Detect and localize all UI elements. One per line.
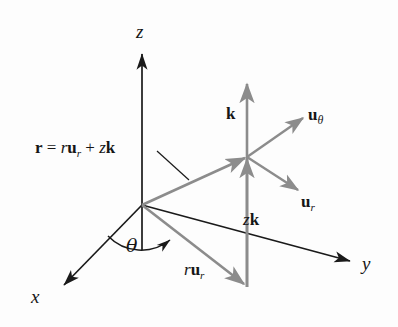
- r-u-r-component-label: rur: [184, 261, 204, 281]
- vector-group: [142, 84, 303, 287]
- position-vector-r: [142, 158, 245, 205]
- cylindrical-coordinates-figure: z y x θ r = rur + zk k uθ ur zk rur: [0, 0, 398, 327]
- r-u-r-bold-u: u: [191, 260, 200, 279]
- equation-equals: =: [47, 138, 57, 157]
- zk-component-label: zk: [243, 211, 259, 228]
- x-axis-label: x: [31, 287, 39, 306]
- theta-angle-label: θ: [126, 236, 137, 255]
- equation-bold-k: k: [106, 138, 115, 157]
- r-u-r-subscript: r: [200, 269, 204, 281]
- k-unit-vector-label: k: [226, 105, 235, 122]
- equation-scalar-z: z: [99, 138, 106, 157]
- zk-scalar-z: z: [243, 210, 250, 229]
- equation-bold-r: r: [35, 138, 43, 157]
- coordinate-axes: [64, 54, 350, 285]
- u-r-subscript: r: [310, 201, 314, 213]
- u-theta-unit-vector-label: uθ: [308, 106, 323, 126]
- equation-leader-line: [157, 151, 189, 180]
- theta-angle-arc: [108, 236, 170, 250]
- zk-bold-k: k: [250, 210, 259, 229]
- z-axis-label: z: [136, 22, 143, 41]
- u-theta-unit-vector: [247, 118, 303, 157]
- equation-bold-u: u: [67, 138, 76, 157]
- position-vector-equation-label: r = rur + zk: [35, 139, 115, 159]
- equation-plus: +: [85, 138, 95, 157]
- u-r-unit-vector: [247, 157, 298, 190]
- y-axis-label: y: [362, 254, 370, 273]
- u-theta-subscript: θ: [317, 113, 323, 127]
- u-r-unit-vector-label: ur: [301, 193, 315, 213]
- r-u-r-scalar-r: r: [184, 260, 191, 279]
